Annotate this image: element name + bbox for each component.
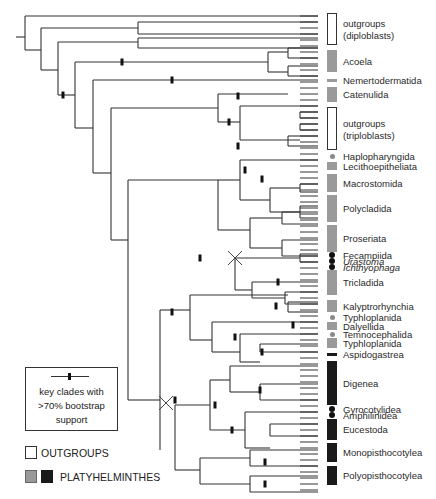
clade-bar	[327, 79, 337, 82]
platyhelminthes-label: PLATYHELMINTHES	[60, 471, 160, 483]
bootstrap-mark-icon	[264, 459, 267, 466]
bootstrap-mark-icon	[237, 93, 240, 100]
clade-label: Monopisthocotylea	[343, 447, 422, 458]
clade-bar	[327, 466, 337, 485]
bootstrap-mark-icon	[228, 119, 231, 126]
clade-bar	[327, 13, 337, 45]
clade-bar	[327, 162, 337, 170]
clade-bar	[327, 443, 337, 462]
clade-label: Amphilinidea	[343, 410, 397, 421]
clade-dot-icon	[330, 154, 335, 159]
bootstrap-mark-icon	[234, 334, 237, 341]
bootstrap-mark-icon	[292, 322, 295, 329]
clade-label: Lecithoepitheliata	[343, 161, 417, 172]
clade-label: Aspidogastrea	[343, 349, 404, 360]
bootstrap-mark-icon	[62, 92, 65, 99]
clade-label: outgroups(diploblasts)	[343, 18, 394, 42]
clade-bar	[327, 419, 337, 440]
bootstrap-mark-icon	[171, 309, 174, 316]
key-text: key clades with >70% bootstrap support	[26, 385, 117, 427]
clade-label: Polyopisthocotylea	[343, 470, 422, 481]
clade-label-line2: (triploblasts)	[343, 130, 395, 142]
clade-bar	[327, 338, 337, 348]
bootstrap-mark-icon	[231, 427, 234, 434]
bootstrap-mark-icon	[277, 279, 280, 286]
key-line-1: key clades with	[26, 385, 117, 399]
bootstrap-mark-icon	[171, 77, 174, 84]
key-line-2: >70% bootstrap	[26, 399, 117, 413]
clade-label: Ichthyophaga	[343, 262, 400, 273]
key-line-3: support	[26, 413, 117, 427]
clade-label: Acoela	[343, 56, 372, 67]
clade-dot-icon	[330, 315, 335, 320]
clade-label-line1: outgroups	[343, 118, 395, 130]
clade-bar	[327, 270, 337, 295]
bootstrap-mark-icon	[264, 481, 267, 488]
bootstrap-mark-icon	[275, 303, 278, 310]
clade-bar	[327, 361, 337, 405]
platy-gray-swatch-icon	[25, 470, 37, 483]
legend-platyhelminthes: PLATYHELMINTHES	[25, 470, 160, 483]
bootstrap-mark-icon	[121, 59, 124, 66]
clade-label: Macrostomida	[343, 178, 403, 189]
bootstrap-mark-icon	[68, 373, 71, 380]
clade-label: Typhloplanida	[343, 338, 402, 349]
outgroups-label: OUTGROUPS	[41, 447, 109, 459]
clade-bar	[327, 174, 337, 192]
clade-label: Polycladida	[343, 203, 392, 214]
bootstrap-mark-icon	[244, 167, 247, 174]
clade-label: Tricladida	[343, 277, 384, 288]
clade-bar	[327, 87, 337, 102]
clade-black-dot-icon	[329, 412, 335, 418]
clade-label: Digenea	[343, 378, 378, 389]
clade-label-line2: (diploblasts)	[343, 30, 394, 42]
clade-label: Catenulida	[343, 89, 388, 100]
clade-label: Proseriata	[343, 233, 386, 244]
bootstrap-mark-icon	[214, 402, 217, 409]
bootstrap-key-box: key clades with >70% bootstrap support	[25, 367, 118, 431]
clade-label: outgroups(triploblasts)	[343, 118, 395, 142]
platy-black-swatch-icon	[41, 470, 53, 483]
clade-bar	[327, 322, 337, 330]
legend-outgroups: OUTGROUPS	[25, 446, 109, 459]
clade-dot-icon	[330, 332, 335, 337]
clade-bar	[327, 225, 337, 252]
clade-label-line1: outgroups	[343, 18, 394, 30]
bootstrap-mark-icon	[259, 387, 262, 394]
clade-bar	[327, 353, 337, 356]
clade-label: Kalyptrorhynchia	[343, 301, 414, 312]
bootstrap-mark-icon	[199, 255, 202, 262]
clade-bar	[327, 107, 337, 150]
bootstrap-mark-icon	[261, 349, 264, 356]
clade-bar	[327, 300, 337, 312]
clade-label: Nemertodermatida	[343, 75, 422, 86]
clade-bar	[327, 50, 337, 72]
bootstrap-mark-icon	[174, 397, 177, 404]
clade-bar	[327, 195, 337, 222]
phylogeny-figure: outgroups(diploblasts)AcoelaNemertoderma…	[0, 0, 436, 499]
outgroup-swatch-icon	[25, 446, 37, 459]
clade-label: Eucestoda	[343, 424, 388, 435]
bootstrap-mark-icon	[237, 143, 240, 150]
bootstrap-mark-icon	[261, 176, 264, 183]
